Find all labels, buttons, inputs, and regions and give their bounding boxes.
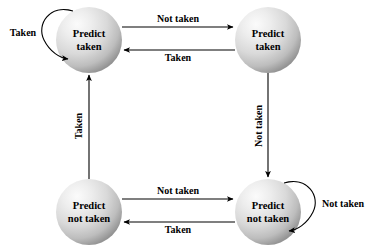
transition-bottom-left-edge: Taken bbox=[124, 222, 235, 235]
transition-bottom-right-edge: Not taken bbox=[122, 185, 233, 199]
state-node-predict-not-taken-weak[interactable]: Predict not taken bbox=[56, 179, 122, 245]
edge-label: Not taken bbox=[157, 13, 199, 24]
state-circle bbox=[56, 179, 122, 245]
state-label-line1: Predict bbox=[252, 200, 285, 211]
self-loop-label: Not taken bbox=[322, 198, 364, 209]
state-label-line1: Predict bbox=[252, 28, 285, 39]
transition-right-down-edge: Not taken bbox=[253, 73, 268, 177]
state-node-predict-not-taken-strong[interactable]: Predict not taken bbox=[235, 179, 301, 245]
transition-top-right-edge: Not taken bbox=[122, 13, 233, 27]
state-label-line1: Predict bbox=[73, 200, 106, 211]
transition-left-up-edge: Taken bbox=[73, 75, 89, 179]
edge-label: Taken bbox=[73, 112, 84, 139]
edge-label: Not taken bbox=[253, 105, 264, 147]
diagram-canvas: Predict taken Predict taken Predict not … bbox=[0, 0, 374, 249]
edge-label: Taken bbox=[165, 224, 192, 235]
transition-top-left-edge: Taken bbox=[124, 50, 235, 63]
state-label-line2: not taken bbox=[68, 213, 110, 224]
state-circle bbox=[235, 7, 301, 73]
state-label-line2: not taken bbox=[247, 213, 289, 224]
state-circle bbox=[235, 179, 301, 245]
state-diagram: Predict taken Predict taken Predict not … bbox=[0, 0, 374, 249]
state-node-predict-taken-strong[interactable]: Predict taken bbox=[56, 7, 122, 73]
state-label-line2: taken bbox=[255, 41, 280, 52]
self-loop-label: Taken bbox=[10, 27, 37, 38]
state-label-line1: Predict bbox=[73, 28, 106, 39]
state-node-predict-taken-weak[interactable]: Predict taken bbox=[235, 7, 301, 73]
edge-label: Not taken bbox=[157, 185, 199, 196]
state-circle bbox=[56, 7, 122, 73]
state-label-line2: taken bbox=[76, 41, 101, 52]
edge-label: Taken bbox=[165, 52, 192, 63]
